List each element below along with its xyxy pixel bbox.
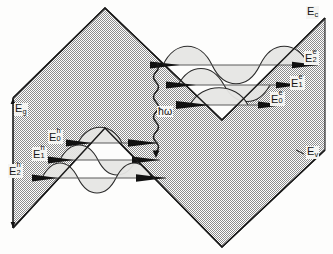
e0e-indices: e0 (279, 92, 284, 103)
e2h-indices: h2 (17, 164, 22, 175)
ec-sub: c (315, 10, 319, 19)
e0h-base: E (49, 131, 57, 143)
label-electron-level-0: Ee0 (270, 92, 285, 106)
e2e-base: E (305, 52, 313, 64)
e1e-base: E (291, 77, 299, 89)
ev-base: E (307, 145, 315, 157)
e2h-sub: 2 (17, 169, 21, 177)
e1e-sub: 1 (299, 81, 303, 89)
label-valence-band-edge: Ev (306, 146, 319, 159)
e0h-sub: 0 (57, 135, 61, 143)
label-hole-level-0: Eh0 (48, 130, 63, 144)
label-band-gap: Eg (14, 103, 28, 116)
e1h-base: E (33, 148, 41, 160)
label-electron-level-1: Ee1 (290, 76, 305, 90)
ec-base: E (307, 5, 315, 17)
e2h-base: E (9, 165, 17, 177)
label-hole-level-2: Eh2 (8, 164, 23, 178)
label-photon-energy: ħω (157, 106, 173, 117)
label-hole-level-1: Eh1 (32, 147, 47, 161)
e0e-base: E (271, 93, 279, 105)
ev-sub: v (315, 150, 319, 159)
e2e-sub: 2 (313, 56, 317, 64)
band-gap-sub: g (23, 107, 27, 116)
e0h-indices: h0 (57, 130, 62, 141)
e0e-sub: 0 (279, 97, 283, 105)
label-electron-level-2: Ee2 (304, 51, 319, 65)
band-gap-base: E (15, 102, 23, 114)
label-conduction-band-edge: Ec (306, 6, 319, 19)
band-diagram-figure: Eg Ec Ev ħω Ee2 Ee1 Ee0 Eh0 Eh1 Eh2 (0, 0, 333, 254)
e1e-indices: e1 (299, 76, 304, 87)
e1h-indices: h1 (41, 147, 46, 158)
e1h-sub: 1 (41, 152, 45, 160)
e2e-indices: e2 (313, 51, 318, 62)
band-diagram-canvas (0, 0, 333, 254)
